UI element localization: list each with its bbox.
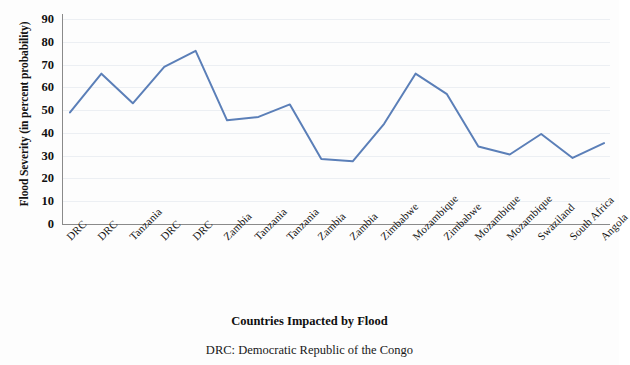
y-axis-tick-label: 10 xyxy=(28,195,54,208)
y-axis-tick-label: 60 xyxy=(28,81,54,94)
flood-severity-polyline xyxy=(70,51,604,161)
chart-caption: DRC: Democratic Republic of the Congo xyxy=(0,343,619,358)
y-axis-tick-label: 20 xyxy=(28,172,54,185)
y-axis-tick-label: 0 xyxy=(28,218,54,231)
y-axis-tick-label: 40 xyxy=(28,127,54,140)
y-axis-tick-label: 70 xyxy=(28,59,54,72)
y-axis-tick-label: 90 xyxy=(28,13,54,26)
y-axis-tick-label: 80 xyxy=(28,36,54,49)
y-axis-tick-label: 50 xyxy=(28,104,54,117)
data-series-line xyxy=(62,12,610,229)
y-axis-tick-label: 30 xyxy=(28,150,54,163)
x-axis-title: Countries Impacted by Flood xyxy=(0,314,619,329)
